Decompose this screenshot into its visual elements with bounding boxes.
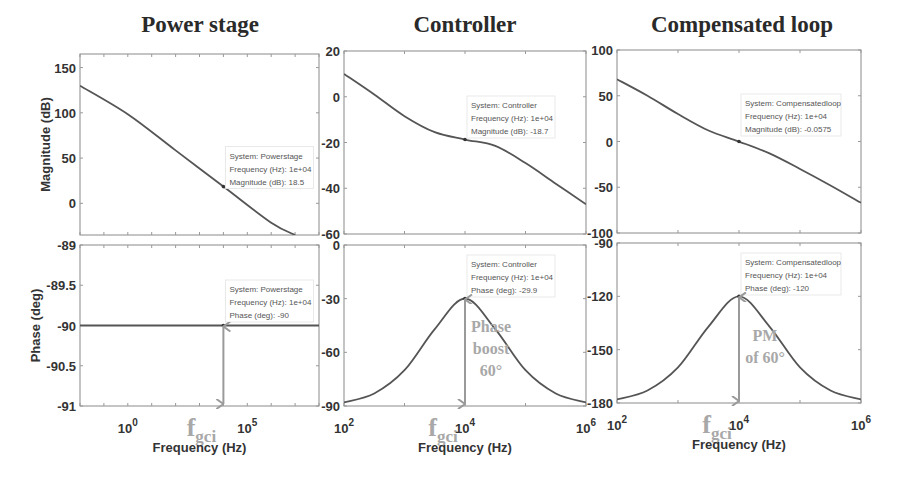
y-tick-label: 50 [599, 89, 613, 104]
x-tick-label: 104 [455, 417, 475, 436]
y-tick-label: -180 [587, 396, 613, 411]
y-tick-label: -89.5 [46, 278, 76, 293]
phase-axes: -89-89.5-90-90.5-91System: PowerstageFre… [46, 238, 319, 446]
datatip-line: Frequency (Hz): 1e+04 [471, 273, 554, 282]
x-tick-label: 104 [729, 414, 749, 433]
y-tick-label: 0 [333, 238, 340, 253]
y-tick-label: 20 [326, 44, 340, 59]
y-tick-label: -30 [321, 292, 340, 307]
datatip-marker[interactable] [463, 138, 467, 142]
power-stage-panel: Power stage150100500System: PowerstageFr… [28, 12, 319, 455]
y-tick-label: -50 [594, 180, 613, 195]
y-tick-label: -40 [321, 181, 340, 196]
datatip-line: Magnitude (dB): -0.0575 [745, 125, 832, 134]
datatip: System: CompensatedloopFrequency (Hz): 1… [741, 94, 842, 136]
y-tick-label: -20 [321, 136, 340, 151]
x-axis-label: Frequency (Hz) [418, 440, 512, 455]
phase-annotation-text: Phase [471, 318, 511, 335]
phase-axes: 0-30-60-90System: ControllerFrequency (H… [321, 238, 586, 446]
y-tick-label: 50 [62, 151, 76, 166]
y-tick-label: 100 [54, 106, 76, 121]
x-axis-label: Frequency (Hz) [153, 440, 247, 455]
phase-axes: -90-120-150-180System: CompensatedloopFr… [587, 236, 861, 443]
magnitude-axes: 200-20-40-60System: ControllerFrequency … [321, 44, 586, 242]
magnitude-axes: 150100500System: PowerstageFrequency (Hz… [54, 54, 319, 235]
x-tick-label: 106 [851, 414, 871, 433]
magnitude-axes: 100500-50-100System: CompensatedloopFreq… [587, 43, 861, 241]
x-axis-label: Frequency (Hz) [692, 437, 786, 452]
y-tick-label: -60 [321, 345, 340, 360]
phase-annotation-text: of 60° [745, 349, 785, 366]
y-tick-label: -89 [57, 238, 76, 253]
panel-title: Compensated loop [651, 12, 833, 37]
y-tick-label: -90.5 [46, 359, 76, 374]
datatip-marker[interactable] [737, 140, 741, 144]
x-tick-label: 102 [334, 417, 354, 436]
datatip-marker[interactable] [222, 185, 226, 189]
y-tick-label: -150 [587, 343, 613, 358]
datatip-line: System: Controller [471, 101, 537, 110]
datatip-line: Frequency (Hz): 1e+04 [229, 165, 312, 174]
y-axis-label-phase: Phase (deg) [28, 289, 43, 363]
datatip-line: Frequency (Hz): 1e+04 [745, 271, 828, 280]
datatip-line: System: Controller [471, 260, 537, 269]
x-tick-label: 102 [607, 414, 627, 433]
datatip-line: Phase (deg): -120 [745, 284, 810, 293]
datatip-line: Frequency (Hz): 1e+04 [229, 298, 312, 307]
y-tick-label: 150 [54, 61, 76, 76]
y-axis-label-magnitude: Magnitude (dB) [38, 97, 53, 192]
phase-annotation-text: PM [753, 327, 778, 344]
datatip-line: Magnitude (dB): -18.7 [471, 127, 549, 136]
phase-annotation-text: 60° [480, 362, 502, 379]
compensated-loop-panel: Compensated loop100500-50-100System: Com… [587, 12, 871, 452]
bode-figure: Power stage150100500System: PowerstageFr… [0, 0, 904, 483]
x-tick-label: 105 [237, 417, 257, 436]
x-tick-label: 100 [118, 417, 138, 436]
y-tick-label: -90 [57, 319, 76, 334]
datatip-line: Phase (deg): -90 [229, 311, 289, 320]
datatip-line: System: Powerstage [229, 152, 303, 161]
controller-panel: Controller200-20-40-60System: Controller… [321, 12, 596, 455]
datatip-line: Frequency (Hz): 1e+04 [471, 114, 554, 123]
axes-frame [80, 54, 319, 235]
y-tick-label: 0 [606, 135, 613, 150]
datatip: System: ControllerFrequency (Hz): 1e+04P… [467, 255, 555, 297]
datatip-line: Phase (deg): -29.9 [471, 286, 538, 295]
datatip-line: System: Compensatedloop [745, 258, 842, 267]
datatip-line: System: Powerstage [229, 285, 303, 294]
datatip: System: PowerstageFrequency (Hz): 1e+04M… [225, 147, 313, 189]
datatip-line: System: Compensatedloop [745, 99, 842, 108]
phase-annotation-text: boost [473, 340, 510, 357]
x-tick-label: 106 [576, 417, 596, 436]
y-tick-label: 0 [69, 196, 76, 211]
axes-frame [344, 51, 586, 234]
datatip: System: CompensatedloopFrequency (Hz): 1… [741, 253, 842, 295]
datatip-line: Frequency (Hz): 1e+04 [745, 112, 828, 121]
y-tick-label: -91 [57, 399, 76, 414]
y-tick-label: 100 [591, 43, 613, 58]
y-tick-label: -90 [594, 236, 613, 251]
y-tick-label: -90 [321, 399, 340, 414]
panel-title: Controller [413, 12, 516, 37]
datatip: System: PowerstageFrequency (Hz): 1e+04P… [225, 280, 313, 322]
datatip: System: ControllerFrequency (Hz): 1e+04M… [467, 96, 555, 138]
y-tick-label: 0 [333, 90, 340, 105]
y-tick-label: -120 [587, 289, 613, 304]
panel-title: Power stage [141, 12, 259, 37]
datatip-line: Magnitude (dB): 18.5 [229, 178, 304, 187]
